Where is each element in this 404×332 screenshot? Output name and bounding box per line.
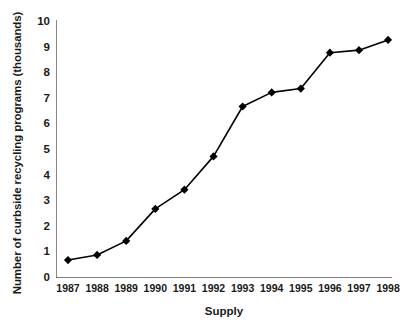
axis-lines [56, 20, 392, 278]
y-axis-tick-labels: 012345678910 [26, 0, 50, 332]
y-tick-label: 6 [28, 119, 50, 131]
y-tick-label: 7 [28, 93, 50, 105]
plot-svg [56, 20, 392, 278]
data-point-marker [93, 251, 101, 259]
plot-area [56, 20, 392, 278]
x-tick-label: 1998 [368, 282, 404, 295]
y-tick-label: 8 [28, 67, 50, 79]
data-point-marker [64, 256, 72, 264]
y-tick-label: 0 [28, 272, 50, 284]
x-axis-tick-labels: 1987198819891990199119921993199419951996… [56, 282, 392, 298]
y-tick-label: 4 [28, 170, 50, 182]
data-point-marker [355, 46, 363, 54]
data-point-marker [384, 36, 392, 44]
y-tick-label: 1 [28, 247, 50, 259]
data-point-markers [64, 36, 392, 264]
y-tick-label: 10 [28, 16, 50, 28]
line-chart: Number of curbside recycling programs (t… [0, 0, 404, 332]
y-tick-label: 5 [28, 144, 50, 156]
y-tick-label: 9 [28, 42, 50, 54]
y-tick-label: 2 [28, 221, 50, 233]
x-axis-title: Supply [56, 305, 392, 317]
data-point-marker [239, 102, 247, 110]
data-line [68, 40, 388, 260]
y-tick-label: 3 [28, 195, 50, 207]
y-axis-title: Number of curbside recycling programs (t… [6, 18, 28, 288]
data-point-marker [268, 88, 276, 96]
